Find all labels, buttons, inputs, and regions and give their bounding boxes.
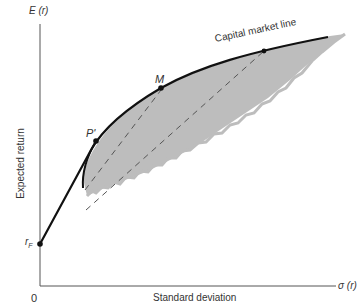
y-axis-label: Expected return [15,114,26,214]
rf-sub: F [28,242,32,249]
y-axis-symbol: E (r) [29,5,48,16]
point-rf [37,241,43,247]
x-axis-label: Standard deviation [153,292,236,303]
m-label: M [155,73,164,85]
point-p-prime [93,138,99,144]
rf-label: rF [25,236,33,249]
x-axis-symbol: σ (r) [338,280,357,291]
chart-canvas [0,0,363,306]
point-m [158,85,164,91]
p-prime-label: P' [86,127,95,139]
origin-label: 0 [31,292,37,304]
point-upper [262,49,267,54]
